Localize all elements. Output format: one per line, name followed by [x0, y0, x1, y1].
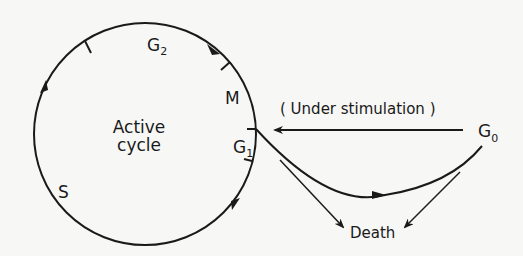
phase-label-g1: G1 [233, 137, 253, 160]
phase-label-s: S [58, 182, 69, 202]
center-label-line2: cycle [117, 135, 161, 155]
g1-to-g0-curve [256, 129, 482, 197]
g0-label: G0 [478, 121, 498, 145]
phase-tick-s-g2 [85, 41, 91, 53]
phase-tick-g2-m [221, 62, 230, 70]
arrow-icon-bottom-right [231, 198, 240, 210]
center-label-line1: Active [113, 117, 166, 137]
death-label: Death [350, 224, 395, 242]
g0-to-death-arrow [405, 172, 460, 227]
stimulation-label: ( Under stimulation ) [280, 100, 436, 118]
phase-label-m: M [225, 88, 240, 108]
cell-cycle-diagram: G2 M G1 S Active cycle ( Under stimulati… [0, 0, 523, 256]
g1-to-death-arrow [280, 160, 343, 227]
phase-label-g2: G2 [147, 35, 167, 58]
arrow-icon-curve [372, 191, 386, 199]
